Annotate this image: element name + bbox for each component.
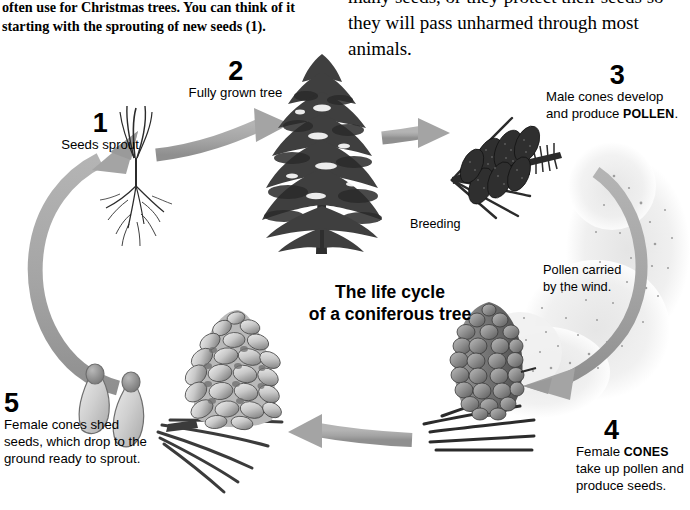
stage-2-number: 2 <box>168 58 303 85</box>
stage-1-label: 1 Seeds sprout <box>40 110 160 154</box>
intro-text-right: many seeds, or they protect their seeds … <box>348 0 688 63</box>
stage-4-number: 4 <box>604 417 690 444</box>
stage-3-caption-emphasis: POLLEN <box>623 107 674 121</box>
intro-text-left: often use for Christmas trees. You can t… <box>2 0 338 35</box>
stage-2-caption: Fully grown tree <box>168 85 303 102</box>
illustration-open-pine-cone <box>158 310 284 492</box>
stage-3-label: 3 Male cones develop and produce POLLEN. <box>546 62 688 123</box>
stage-2-label: 2 Fully grown tree <box>168 58 303 102</box>
stage-3-caption-suffix: . <box>674 106 678 121</box>
stage-4-caption-prefix: Female <box>576 444 624 459</box>
stage-4-caption-emphasis: CONES <box>624 445 669 459</box>
stage-5-caption: Female cones shed seeds, which drop to t… <box>4 417 154 468</box>
illustration-male-cones-branch <box>452 118 562 218</box>
diagram-title-line-2: of a coniferous tree <box>300 303 480 325</box>
stage-1-caption: Seeds sprout <box>40 137 160 154</box>
stage-5-label: 5 Female cones shed seeds, which drop to… <box>4 390 154 468</box>
breeding-label: Breeding <box>410 216 460 232</box>
stage-4-caption-suffix: take up pollen and produce seeds. <box>576 461 684 493</box>
wind-note: Pollen carried by the wind. <box>543 262 621 295</box>
stage-4-caption: Female CONES take up pollen and produce … <box>576 444 690 495</box>
stage-3-caption: Male cones develop and produce POLLEN. <box>546 89 688 123</box>
diagram-title-line-1: The life cycle <box>300 281 480 303</box>
wind-note-line-1: Pollen carried <box>543 262 621 279</box>
stage-3-number: 3 <box>546 62 688 89</box>
diagram-title: The life cycle of a coniferous tree <box>300 281 480 325</box>
stage-1-number: 1 <box>40 110 160 137</box>
wind-note-line-2: by the wind. <box>543 279 621 296</box>
stage-4-label: 4 Female CONES take up pollen and produc… <box>576 417 690 495</box>
stage-5-number: 5 <box>4 390 154 417</box>
